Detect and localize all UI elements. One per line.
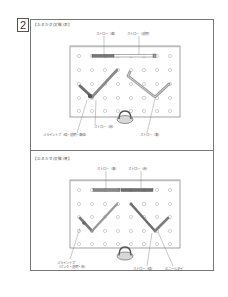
joint-connector [88,94,92,98]
pegboard-diagram [0,0,228,297]
joint-connector [82,221,86,225]
top-straw-assembly [93,189,153,192]
pegboard-front [70,36,180,133]
pegboard-back [70,171,180,266]
top-straw-assembly [92,54,156,58]
hanger-hook [117,247,133,260]
